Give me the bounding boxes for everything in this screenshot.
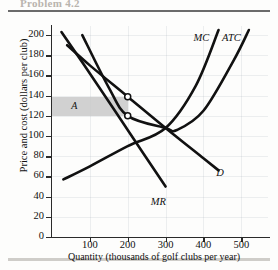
y-axis-tick-label: 0	[14, 230, 44, 241]
y-axis-tick	[46, 197, 52, 198]
chart-page: Problem 4.2 0204060801001201401601802001…	[0, 0, 278, 270]
curve-label-atc: ATC	[222, 32, 241, 43]
y-axis-tick	[46, 55, 52, 56]
y-axis-tick-label: 20	[14, 210, 44, 221]
curve-label-a: A	[71, 100, 77, 111]
y-axis-title: Price and cost (dollars per club)	[18, 31, 29, 181]
y-axis-tick	[46, 217, 52, 218]
gridline-vertical	[90, 26, 91, 237]
top-divider	[8, 10, 270, 12]
gridline-horizontal	[52, 217, 268, 218]
y-axis-tick	[46, 116, 52, 117]
y-axis-tick	[46, 237, 52, 238]
gridline-vertical	[241, 26, 242, 237]
y-axis-tick	[46, 35, 52, 36]
shaded-region-profit	[52, 97, 128, 116]
gridline-vertical	[128, 26, 129, 237]
x-axis-tick-label: 300	[146, 239, 186, 250]
y-axis-line	[51, 25, 52, 238]
y-axis-tick	[46, 136, 52, 137]
gridline-horizontal	[52, 75, 268, 76]
gridline-horizontal	[52, 176, 268, 177]
gridline-horizontal	[52, 136, 268, 137]
x-axis-title: Quantity (thousands of golf clubs per ye…	[34, 251, 274, 262]
curve-label-mc: MC	[194, 32, 210, 43]
curve-label-mr: MR	[151, 196, 166, 207]
page-heading: Problem 4.2	[20, 0, 140, 9]
gridline-horizontal	[52, 116, 268, 117]
gridline-horizontal	[52, 156, 268, 157]
curve-label-d: D	[216, 167, 224, 178]
gridline-vertical	[203, 26, 204, 237]
x-axis-tick-label: 100	[70, 239, 110, 250]
y-axis-tick	[46, 156, 52, 157]
x-axis-tick-label: 400	[183, 239, 223, 250]
x-axis-tick-label: 200	[108, 239, 148, 250]
y-axis-tick	[46, 176, 52, 177]
y-axis-tick	[46, 75, 52, 76]
gridline-horizontal	[52, 55, 268, 56]
y-axis-tick-label: 40	[14, 190, 44, 201]
x-axis-tick-label: 500	[221, 239, 261, 250]
